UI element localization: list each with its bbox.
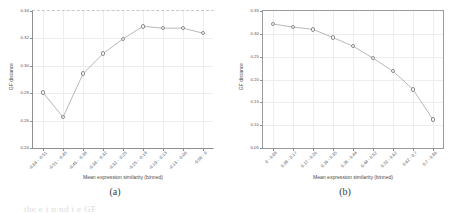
x-tick-label-b: 0.44 - 0.52	[360, 151, 378, 169]
x-tick-label-a: -0.51 - -0.45	[48, 151, 68, 171]
x-tick-label-a: -0.38 - -0.32	[88, 151, 108, 171]
y-tick-label-a: 0.34	[20, 9, 29, 13]
series-line-b	[263, 11, 443, 148]
data-point-marker-b	[411, 87, 416, 92]
x-tick-label-a: -0.45 - -0.38	[68, 151, 88, 171]
x-tick-label-b: 0.7 - 0.86	[422, 151, 438, 167]
x-tick-label-b: 0.26 - 0.35	[320, 151, 338, 169]
x-tick-label-a: -0.64 - -0.51	[28, 151, 48, 171]
y-tick-label-b: 0.20	[250, 77, 259, 81]
y-axis-title-a: GF distance	[9, 47, 14, 107]
y-tick-b	[260, 148, 263, 149]
x-axis-title-b: Mean expression similarity (binned)	[262, 175, 444, 180]
figure-panel-a: 0.240.260.280.300.320.34-0.64 - -0.51-0.…	[0, 0, 230, 215]
y-tick-label-a: 0.32	[20, 36, 29, 40]
y-tick-label-a: 0.24	[20, 146, 29, 150]
y-tick-label-b: 0.10	[250, 123, 259, 127]
y-tick-label-b: 0.15	[250, 100, 259, 104]
data-point-marker-a	[41, 90, 46, 95]
panel-caption-a: (a)	[0, 186, 230, 197]
x-tick-label-a: -0.13 - -0.06	[168, 151, 188, 171]
plot-area-a: 0.240.260.280.300.320.34-0.64 - -0.51-0.…	[32, 10, 214, 149]
y-tick-a	[30, 148, 33, 149]
data-point-marker-a	[141, 24, 146, 29]
figure-panel-b: 0.050.100.150.200.250.300.350 - 0.080.08…	[230, 0, 460, 215]
x-tick-label-b: 0.35 - 0.44	[340, 151, 358, 169]
x-tick-label-a: -0.19 - -0.13	[148, 151, 168, 171]
x-tick-label-b: 0 - 0.08	[265, 151, 278, 164]
y-tick-label-b: 0.35	[250, 9, 259, 13]
y-tick-label-b: 0.30	[250, 32, 259, 36]
x-tick-label-a: -0.25 - -0.19	[128, 151, 148, 171]
x-tick-label-b: 0.08 - 0.17	[280, 151, 298, 169]
y-tick-label-a: 0.26	[20, 118, 29, 122]
y-tick-label-b: 0.05	[250, 146, 259, 150]
x-tick-label-b: 0.62 - 0.7	[402, 151, 418, 167]
figure-canvas: 0.240.260.280.300.320.34-0.64 - -0.51-0.…	[0, 0, 460, 215]
series-line-a	[33, 11, 213, 148]
x-tick-label-b: 0.52 - 0.62	[380, 151, 398, 169]
y-axis-title-b: GF distance	[239, 47, 244, 107]
x-tick-label-b: 0.17 - 0.26	[300, 151, 318, 169]
data-point-marker-b	[311, 27, 316, 32]
data-point-marker-b	[331, 35, 336, 40]
page-footer-fragment: the e t n nd t e GF	[0, 205, 460, 215]
plot-area-b: 0.050.100.150.200.250.300.350 - 0.080.08…	[262, 10, 444, 149]
x-tick-label-a: -0.32 - -0.25	[108, 151, 128, 171]
y-tick-label-a: 0.28	[20, 91, 29, 95]
x-axis-title-a: Mean expression similarity (binned)	[32, 175, 214, 180]
y-tick-label-a: 0.30	[20, 64, 29, 68]
panel-caption-b: (b)	[230, 186, 460, 197]
x-tick-label-a: -0.06 - 0	[194, 151, 208, 165]
y-tick-label-b: 0.25	[250, 54, 259, 58]
footer-text: the e t n nd t e GF	[24, 205, 96, 214]
